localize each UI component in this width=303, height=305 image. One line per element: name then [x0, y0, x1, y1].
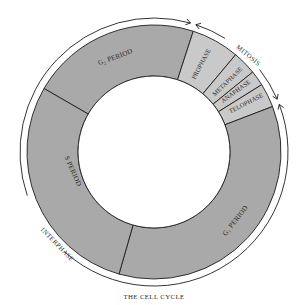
diagram-caption: THE CELL CYCLE [123, 293, 184, 300]
cell-cycle-diagram: G₂ PERIOD S PERIOD G₁ PERIOD PROPHASE ME… [0, 0, 303, 305]
center-hole [78, 76, 230, 228]
